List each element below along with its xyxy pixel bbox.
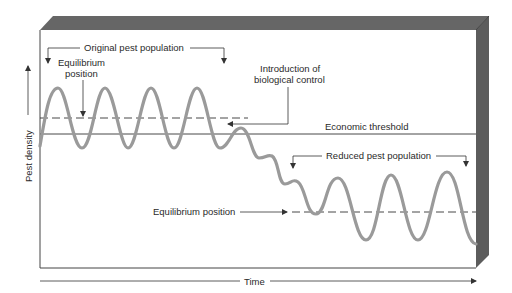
reduced-population-bracket: Reduced pest population <box>293 150 466 168</box>
pest-population-diagram: Pest density Time Original pest populati… <box>0 0 512 293</box>
y-axis-label-group: Pest density <box>23 66 34 182</box>
equilibrium-upper-label-line2: position <box>65 68 98 79</box>
introduction-annotation: Introduction of biological control <box>228 63 325 124</box>
x-axis-label: Time <box>244 276 265 287</box>
chart-frame <box>40 16 489 268</box>
reduced-population-label: Reduced pest population <box>326 150 431 161</box>
frame-top-bevel <box>40 16 489 30</box>
frame-right-bevel <box>476 16 489 268</box>
y-axis-label: Pest density <box>23 130 34 182</box>
equilibrium-upper-label-line1: Equilibrium <box>58 57 105 68</box>
reduced-bracket-right <box>436 156 466 166</box>
economic-threshold-label: Economic threshold <box>325 121 408 132</box>
introduction-label-line1: Introduction of <box>260 63 321 74</box>
reduced-bracket-left <box>293 156 322 168</box>
original-population-label: Original pest population <box>84 42 184 53</box>
x-axis-label-group: Time <box>40 276 476 287</box>
equilibrium-lower-label: Equilibrium position <box>153 206 235 217</box>
introduction-label-line2: biological control <box>254 74 325 85</box>
equilibrium-lower-annotation: Equilibrium position <box>153 206 287 217</box>
original-bracket-right <box>190 48 224 63</box>
pest-density-curve <box>40 88 476 244</box>
